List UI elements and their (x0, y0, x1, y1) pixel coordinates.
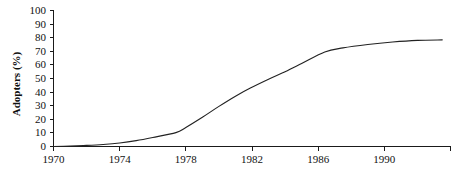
y-tick-label-60: 60 (35, 58, 47, 70)
adopters-line-chart: Adopters (%) 0 10 20 30 (0, 0, 467, 175)
x-tick-labels: 1970 1974 1978 1982 1986 1990 (43, 153, 396, 165)
y-tick-label-100: 100 (30, 4, 47, 16)
x-tick-label-1986: 1986 (307, 153, 330, 165)
x-tick-label-1974: 1974 (109, 153, 132, 165)
y-tick-label-30: 30 (35, 99, 47, 111)
y-axis-group: 0 10 20 30 40 50 60 70 80 90 100 (30, 4, 54, 152)
y-tick-label-40: 40 (35, 86, 47, 98)
y-tick-label-70: 70 (35, 45, 47, 57)
series-group (54, 40, 443, 147)
y-axis-title-group: Adopters (%) (10, 51, 23, 116)
x-tick-label-1970: 1970 (43, 153, 66, 165)
adopters-curve (54, 40, 443, 147)
x-tick-label-1990: 1990 (373, 153, 396, 165)
y-axis-title: Adopters (%) (10, 51, 23, 116)
chart-figure: Adopters (%) 0 10 20 30 (0, 0, 467, 175)
x-tick-label-1978: 1978 (175, 153, 198, 165)
y-tick-label-90: 90 (35, 18, 47, 30)
y-tick-label-20: 20 (35, 113, 47, 125)
x-tick-label-1982: 1982 (241, 153, 263, 165)
x-axis-group: 1970 1974 1978 1982 1986 1990 (43, 147, 451, 166)
y-tick-label-50: 50 (35, 72, 47, 84)
y-tick-label-80: 80 (35, 31, 47, 43)
x-tick-marks (54, 147, 451, 151)
y-tick-label-0: 0 (41, 140, 47, 152)
y-tick-labels: 0 10 20 30 40 50 60 70 80 90 100 (30, 4, 47, 152)
y-tick-marks (50, 11, 54, 147)
y-tick-label-10: 10 (35, 126, 47, 138)
